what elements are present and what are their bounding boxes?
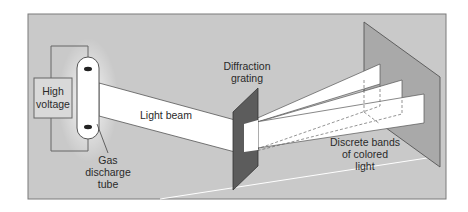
high-voltage-label-1: High xyxy=(42,85,64,97)
gas-tube-label-2: discharge xyxy=(85,166,131,178)
gas-tube-label-3: tube xyxy=(98,178,119,190)
grating-label-1: Diffraction xyxy=(223,60,270,72)
gas-tube-label-1: Gas xyxy=(98,154,117,166)
grating-label-2: grating xyxy=(231,72,263,84)
bands-label-3: light xyxy=(355,160,374,172)
electrode-bottom-icon xyxy=(84,125,92,129)
bands-label-1: Discrete bands xyxy=(330,136,400,148)
bands-label-2: of colored xyxy=(342,148,388,160)
beam-through-grating xyxy=(244,120,258,152)
light-beam-label: Light beam xyxy=(140,109,192,121)
high-voltage-label-2: voltage xyxy=(36,98,70,110)
diffraction-diagram: High voltage Light beam Gas discharge tu… xyxy=(0,0,468,212)
electrode-top-icon xyxy=(84,67,92,71)
